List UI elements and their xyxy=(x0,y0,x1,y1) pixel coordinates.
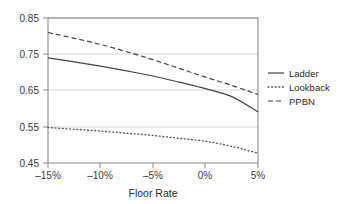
legend-label-lookback: Lookback xyxy=(289,82,330,93)
line-chart: 0.85 0.75 0.65 0.55 0.45 –15% –10% –5% 0… xyxy=(0,0,342,204)
y-tick-label-055: 0.55 xyxy=(20,122,40,133)
y-tick-label-065: 0.65 xyxy=(20,85,40,96)
x-tick-label-neg15: –15% xyxy=(35,170,61,181)
x-tick-label-neg10: –10% xyxy=(87,170,113,181)
y-tick-label-085: 0.85 xyxy=(20,13,40,24)
legend-label-ppbn: PPBN xyxy=(289,96,315,107)
x-tick-label-neg5: –5% xyxy=(143,170,163,181)
series-paths xyxy=(48,33,258,154)
x-tick-label-0: 0% xyxy=(198,170,213,181)
series-line-lookback xyxy=(48,127,258,153)
series-line-ppbn xyxy=(48,33,258,95)
x-tick-label-5: 5% xyxy=(251,170,266,181)
y-axis-ticks xyxy=(43,18,48,163)
x-axis-ticks xyxy=(48,163,258,168)
gridlines xyxy=(48,18,258,127)
x-axis-title: Floor Rate xyxy=(128,187,177,199)
series-line-ladder xyxy=(48,58,258,112)
legend: Ladder Lookback PPBN xyxy=(268,68,330,107)
y-tick-label-075: 0.75 xyxy=(20,49,40,60)
chart-figure: 0.85 0.75 0.65 0.55 0.45 –15% –10% –5% 0… xyxy=(0,0,342,204)
legend-label-ladder: Ladder xyxy=(289,68,319,79)
y-tick-label-045: 0.45 xyxy=(20,158,40,169)
